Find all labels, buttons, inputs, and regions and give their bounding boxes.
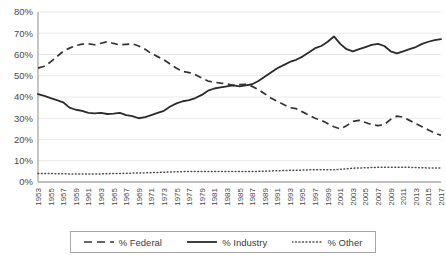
- x-tick-label: 2003: [349, 187, 358, 205]
- x-tick-label: 1989: [261, 187, 270, 205]
- x-tick-label: 1963: [97, 187, 106, 205]
- legend-item-other[interactable]: % Other: [292, 237, 362, 248]
- y-tick-label: 60%: [14, 49, 34, 60]
- x-tick-label: 1979: [198, 187, 207, 205]
- line-chart-plot: 0%10%20%30%40%50%60%70%80% 1953195519571…: [0, 0, 446, 232]
- x-tick-label: 1999: [324, 187, 333, 205]
- x-tick-label: 2013: [412, 187, 421, 205]
- x-tick-label: 2009: [387, 187, 396, 205]
- data-series-group: [38, 36, 441, 173]
- x-tick-label: 2005: [361, 187, 370, 205]
- x-tick-label: 1967: [122, 187, 131, 205]
- x-tick-label: 1957: [59, 187, 68, 205]
- y-tick-label: 80%: [14, 6, 34, 17]
- legend-label-federal: % Federal: [119, 237, 162, 248]
- series-line-other: [38, 167, 441, 174]
- y-tick-label: 70%: [14, 28, 34, 39]
- x-tick-label: 2007: [374, 187, 383, 205]
- x-tick-label: 1975: [173, 187, 182, 205]
- series-line-industry: [38, 36, 441, 118]
- x-tick-label: 1997: [311, 187, 320, 205]
- x-tick-label: 1993: [286, 187, 295, 205]
- y-tick-label: 40%: [14, 91, 34, 102]
- legend-item-federal[interactable]: % Federal: [84, 237, 162, 248]
- x-tick-label: 1965: [110, 187, 119, 205]
- x-tick-label: 1953: [34, 187, 43, 205]
- x-tick-label: 1961: [84, 187, 93, 205]
- x-tick-label: 1991: [273, 187, 282, 205]
- gridlines: [38, 12, 441, 182]
- x-tick-label: 1977: [185, 187, 194, 205]
- x-tick-label: 1983: [223, 187, 232, 205]
- y-tick-label: 20%: [14, 134, 34, 145]
- x-tick-label: 1955: [47, 187, 56, 205]
- legend-label-industry: % Industry: [222, 237, 267, 248]
- series-line-federal: [38, 42, 441, 136]
- x-tick-label: 2017: [437, 187, 446, 205]
- legend-item-industry[interactable]: % Industry: [187, 237, 267, 248]
- x-tick-label: 2011: [399, 187, 408, 205]
- legend-label-other: % Other: [327, 237, 362, 248]
- x-tick-label: 1985: [236, 187, 245, 205]
- chart-legend: % Federal % Industry % Other: [70, 231, 376, 253]
- y-tick-label: 10%: [14, 155, 34, 166]
- x-tick-label: 1973: [160, 187, 169, 205]
- dotted-line-icon: [292, 238, 322, 246]
- x-axis-tick-labels: 1953195519571959196119631965196719691971…: [34, 187, 446, 205]
- y-tick-label: 50%: [14, 70, 34, 81]
- y-tick-label: 0%: [19, 176, 33, 187]
- x-tick-label: 1995: [298, 187, 307, 205]
- x-tick-label: 1981: [210, 187, 219, 205]
- x-tick-label: 1971: [147, 187, 156, 205]
- x-tick-label: 1959: [72, 187, 81, 205]
- solid-line-icon: [187, 238, 217, 246]
- x-tick-label: 1969: [135, 187, 144, 205]
- dashed-line-icon: [84, 238, 114, 246]
- y-tick-label: 30%: [14, 113, 34, 124]
- y-axis-tick-labels: 0%10%20%30%40%50%60%70%80%: [14, 6, 34, 187]
- x-tick-label: 1987: [248, 187, 257, 205]
- x-tick-label: 2001: [336, 187, 345, 205]
- x-tick-label: 2015: [424, 187, 433, 205]
- chart-container: 0%10%20%30%40%50%60%70%80% 1953195519571…: [0, 0, 446, 260]
